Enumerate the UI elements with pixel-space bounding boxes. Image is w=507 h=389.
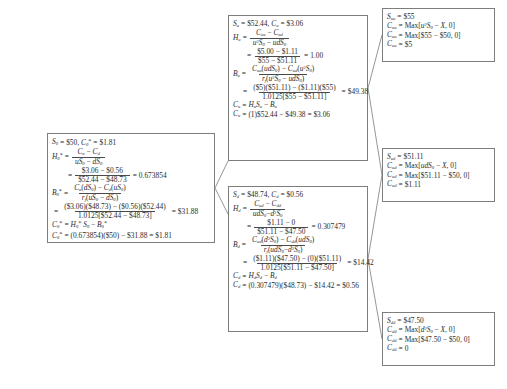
root-S-value: $50: [66, 139, 77, 147]
down-B-value: $14.42: [353, 259, 373, 267]
down-B-calc: = ($1.11)($47.50) − (0)($51.11) 1.0125[$…: [233, 255, 363, 272]
root-node[interactable]: S0 = $50 , C0* = $1.81 H0* = Cu − Cd uS0…: [47, 133, 215, 243]
ud-C-generic-line: Cud = Max[udS0 − X, 0]: [387, 162, 490, 171]
down-B-num: ($1.11)($47.50) − (0)($51.11): [250, 255, 344, 263]
up-C-calc-text: (1)$52.44 − $49.38 = $3.06: [248, 111, 330, 119]
up-B-calc: = ($5)($51.11) − ($1.11)($55) 1.0125[$55…: [233, 84, 363, 101]
dd-C-numeric: Max[$47.50 − $50, 0]: [405, 336, 470, 344]
down-B-fraction: Cud(d2S0) − Cdd(udS0) rf(udS0−d2S0): [249, 236, 317, 255]
ud-C-numeric: Max[$51.11 − $50, 0]: [405, 172, 470, 180]
root-H-fraction: Cu − Cd uS0 − dS0: [72, 148, 105, 167]
ud-S-line: Sud = $51.11: [387, 153, 490, 162]
down-C-formula: Cd = HdSd − Bd: [233, 272, 363, 281]
up-node[interactable]: Su = $52.44 , Cu = $3.06 Hu = Cuu − Cud …: [228, 15, 368, 161]
dd-terminal-node[interactable]: Sdd = $47.50 Cdd = Max[d2S0 − X, 0] Cdd …: [382, 312, 495, 366]
root-header-line: S0 = $50 , C0* = $1.81: [52, 138, 210, 148]
down-H-numeric-fraction: $1.11 − 0 $51.11 − $47.50: [254, 219, 308, 236]
uu-C-generic-line: Cuu = Max[u2S0 − X, 0]: [387, 22, 490, 31]
connector-root-to-down: [215, 188, 228, 214]
up-H-num: $5.00 − $1.11: [254, 48, 301, 56]
root-C-formula: C0* = H0* S0 − B0*: [52, 220, 210, 230]
ud-terminal-node[interactable]: Sud = $51.11 Cud = Max[udS0 − X, 0] Cud …: [382, 148, 495, 202]
root-H-calc: = $3.06 − $0.56 $52.44 − $48.73 = 0.6738…: [52, 167, 210, 184]
down-C-value: $0.56: [287, 191, 304, 199]
up-B-num: ($5)($51.11) − ($1.11)($55): [250, 84, 338, 92]
up-H-calc: = $5.00 − $1.11 $55 − $51.11 = 1.00: [233, 48, 363, 65]
ud-C-value: $1.11: [405, 181, 421, 189]
connector-root-to-up: [215, 161, 228, 188]
up-C-formula: Cu = HuSu − Bu: [233, 101, 363, 110]
root-C-calc-text: (0.673854)($50) − $31.88 = $1.81: [71, 232, 172, 240]
root-C-calc: C0* = (0.673854)($50) − $31.88 = $1.81: [52, 231, 210, 241]
root-B-fraction: Cu(dS0) − Cd(uS0) rf(uS0 − dS0): [71, 184, 129, 203]
uu-C-numeric-line: Cuu = Max[$55 − $50, 0]: [387, 31, 490, 40]
root-H-value: 0.673854: [139, 172, 167, 180]
up-C-value: $3.06: [287, 20, 304, 28]
dd-C-numeric-line: Cdd = Max[$47.50 − $50, 0]: [387, 335, 490, 344]
root-H-num: $3.06 − $0.56: [79, 167, 126, 175]
dd-C-value-line: Cdd = 0: [387, 344, 490, 353]
uu-C-value: $5: [405, 41, 412, 49]
ud-C-value-line: Cud = $1.11: [387, 180, 490, 189]
root-H-formula: H0* = Cu − Cd uS0 − dS0: [52, 148, 210, 167]
dd-S-line: Sdd = $47.50: [387, 317, 490, 326]
connector-up-to-ud: [368, 88, 382, 175]
up-H-fraction: Cuu − Cud u2S0 − udS0: [250, 29, 289, 48]
binomial-tree-diagram: S0 = $50 , C0* = $1.81 H0* = Cu − Cd uS0…: [0, 0, 507, 389]
down-C-calc: Cd = (0.307479)($48.73) − $14.42 = $0.56: [233, 281, 363, 290]
ud-C-numeric-line: Cud = Max[$51.11 − $50, 0]: [387, 171, 490, 180]
down-H-calc: = $1.11 − 0 $51.11 − $47.50 = 0.307479: [233, 219, 363, 236]
down-C-calc-text: (0.307479)($48.73) − $14.42 = $0.56: [248, 282, 359, 290]
uu-C-value-line: Cuu = $5: [387, 40, 490, 49]
root-B-value: $31.88: [178, 208, 198, 216]
uu-C-numeric: Max[$55 − $50, 0]: [405, 32, 461, 40]
uu-terminal-node[interactable]: Suu = $55 Cuu = Max[u2S0 − X, 0] Cuu = M…: [382, 8, 495, 62]
down-B-formula: Bd = Cud(d2S0) − Cdd(udS0) rf(udS0−d2S0): [233, 236, 363, 255]
connector-up-to-uu: [368, 35, 382, 88]
down-H-formula: Hd = Cud − Cdd udS0−d2S0: [233, 200, 363, 219]
connector-down-to-ud: [368, 175, 382, 259]
root-B-num: ($3.06)($48.73) − ($0.56)($52.44): [61, 203, 168, 211]
up-H-value: 1.00: [310, 52, 323, 60]
root-B-calc: = ($3.06)($48.73) − ($0.56)($52.44) 1.01…: [52, 203, 210, 220]
root-B-formula: B0* = Cu(dS0) − Cd(uS0) rf(uS0 − dS0): [52, 184, 210, 203]
dd-S-value: $47.50: [403, 317, 423, 325]
up-B-value: $49.38: [348, 88, 368, 96]
down-H-num: $1.11 − 0: [264, 219, 298, 227]
up-S-value: $52.44: [247, 20, 267, 28]
up-B-formula: Bu = Cuu(udS0) − Cud(u2S0) rf(u2S0 − udS…: [233, 65, 363, 84]
uu-S-line: Suu = $55: [387, 13, 490, 22]
down-header-line: Sd = $48.74 , Cd = $0.56: [233, 191, 363, 200]
ud-S-value: $51.11: [403, 153, 423, 161]
uu-S-value: $55: [403, 13, 414, 21]
down-H-fraction: Cud − Cdd udS0−d2S0: [250, 200, 286, 219]
down-H-value: 0.307479: [318, 223, 346, 231]
connector-down-to-dd: [368, 259, 382, 339]
up-H-numeric-fraction: $5.00 − $1.11 $55 − $51.11: [254, 48, 301, 65]
root-B-den: 1.0125[$52.44 − $48.73]: [75, 211, 155, 220]
dd-C-generic-line: Cdd = Max[d2S0 − X, 0]: [387, 326, 490, 335]
down-S-value: $48.74: [247, 191, 267, 199]
up-C-calc: Cu = (1)$52.44 − $49.38 = $3.06: [233, 110, 363, 119]
up-header-line: Su = $52.44 , Cu = $3.06: [233, 20, 363, 29]
down-B-numeric-fraction: ($1.11)($47.50) − (0)($51.11) 1.0125[$51…: [250, 255, 344, 272]
root-C-value: $1.81: [100, 139, 117, 147]
up-B-fraction: Cuu(udS0) − Cud(u2S0) rf(u2S0 − udS0): [249, 65, 317, 84]
down-node[interactable]: Sd = $48.74 , Cd = $0.56 Hd = Cud − Cdd …: [228, 186, 368, 332]
root-B-numeric-fraction: ($3.06)($48.73) − ($0.56)($52.44) 1.0125…: [61, 203, 168, 220]
dd-C-value: 0: [405, 345, 409, 353]
up-B-numeric-fraction: ($5)($51.11) − ($1.11)($55) 1.0125[$55 −…: [250, 84, 338, 101]
root-H-numeric-fraction: $3.06 − $0.56 $52.44 − $48.73: [75, 167, 130, 184]
up-H-formula: Hu = Cuu − Cud u2S0 − udS0: [233, 29, 363, 48]
